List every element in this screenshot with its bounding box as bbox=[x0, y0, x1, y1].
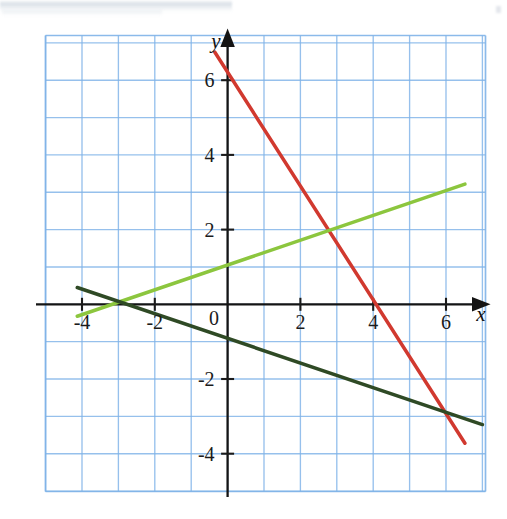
y-tick-label: 2 bbox=[205, 219, 215, 241]
x-axis-label: x bbox=[475, 302, 486, 326]
y-tick-label: -4 bbox=[198, 443, 215, 465]
x-tick-label: 4 bbox=[368, 311, 378, 333]
graph-figure: -4-2246642-2-4 x y 0 bbox=[0, 0, 507, 519]
origin-label: 0 bbox=[209, 307, 219, 329]
grid-lines bbox=[46, 36, 486, 492]
y-tick-label: 6 bbox=[205, 69, 215, 91]
red-line bbox=[215, 52, 465, 443]
x-tick-label: 6 bbox=[441, 311, 451, 333]
y-axis-label: y bbox=[209, 29, 221, 53]
x-tick-label: 2 bbox=[295, 311, 305, 333]
light-green-line bbox=[77, 184, 465, 316]
dark-green-line bbox=[77, 287, 482, 424]
x-tick-label: -2 bbox=[146, 311, 163, 333]
coordinate-plane: -4-2246642-2-4 x y 0 bbox=[0, 0, 507, 519]
y-tick-label: 4 bbox=[205, 144, 215, 166]
plotted-lines bbox=[77, 52, 482, 443]
y-tick-label: -2 bbox=[198, 368, 215, 390]
x-tick-label: -4 bbox=[74, 311, 91, 333]
